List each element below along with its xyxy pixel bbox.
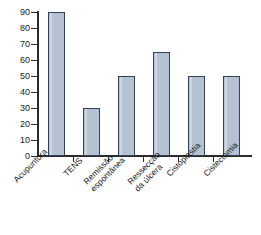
x-tick-label-resseccao-da-ulcera: Ressecção da úlcera xyxy=(126,150,169,193)
bar-resseccao-da-ulcera xyxy=(153,52,170,156)
x-axis-labels: Acupuntura TENS Remissão espontânea Ress… xyxy=(0,156,261,235)
x-tick-label-remissao-espontanea: Remissão espontânea xyxy=(82,149,127,194)
y-tick-label: 40 xyxy=(4,88,30,97)
plot-area xyxy=(38,12,252,156)
y-tick-label: 80 xyxy=(4,24,30,33)
y-tick-label: 70 xyxy=(4,40,30,49)
y-tick-label: 90 xyxy=(4,8,30,17)
bar-chart: 90 80 70 60 50 40 30 20 10 0 xyxy=(0,0,261,235)
y-tick-label: 50 xyxy=(4,72,30,81)
bar-acupuntura xyxy=(48,12,65,156)
y-tick-label: 10 xyxy=(4,136,30,145)
y-tick-label: 20 xyxy=(4,120,30,129)
x-tick-label-tens: TENS xyxy=(62,156,85,179)
bar-remissao-espontanea xyxy=(118,76,135,156)
bar-tens xyxy=(83,108,100,156)
y-tick-label: 60 xyxy=(4,56,30,65)
y-tick-label: 30 xyxy=(4,104,30,113)
